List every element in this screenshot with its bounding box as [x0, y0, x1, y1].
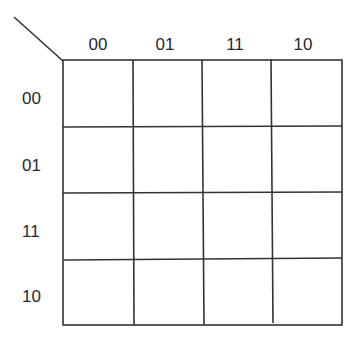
column-label: 11 [200, 36, 270, 53]
corner-diagonal [14, 17, 63, 61]
column-label: 00 [63, 36, 133, 53]
column-label: 10 [268, 36, 338, 53]
grid-lines [63, 59, 342, 325]
row-label: 11 [22, 223, 62, 240]
row-label: 10 [22, 288, 62, 305]
row-label: 01 [22, 157, 62, 174]
row-label: 00 [22, 90, 62, 107]
column-label: 01 [130, 36, 200, 53]
